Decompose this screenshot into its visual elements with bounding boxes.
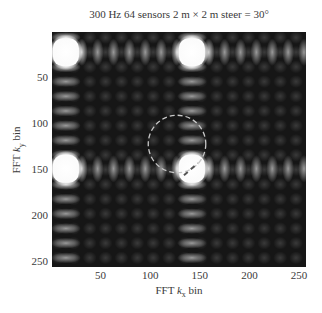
y-tick-label: 200 [22, 209, 48, 221]
chart-title: 300 Hz 64 sensors 2 m × 2 m steer = 30° [52, 8, 306, 20]
y-tick-label: 250 [22, 255, 48, 267]
y-axis-label-sub: y [17, 143, 26, 147]
y-axis-label-prefix: FFT [10, 152, 22, 174]
x-axis-label: FFT kx bin [52, 284, 306, 299]
y-axis-label-suffix: bin [10, 126, 22, 143]
x-tick-label: 150 [192, 269, 209, 281]
x-tick-label: 200 [241, 269, 258, 281]
y-axis-label-var: k [10, 147, 22, 152]
heatmap-plot-area [52, 32, 306, 267]
y-tick-label: 100 [22, 117, 48, 129]
x-tick-label: 100 [142, 269, 159, 281]
y-tick-label: 50 [22, 71, 48, 83]
x-axis-label-suffix: bin [186, 284, 203, 296]
y-axis-label: FFT ky bin [10, 126, 25, 173]
x-tick-label: 50 [95, 269, 106, 281]
x-tick-label: 250 [291, 269, 308, 281]
y-tick-label: 150 [22, 163, 48, 175]
heatmap-image [52, 32, 306, 267]
x-axis-label-prefix: FFT [155, 284, 177, 296]
